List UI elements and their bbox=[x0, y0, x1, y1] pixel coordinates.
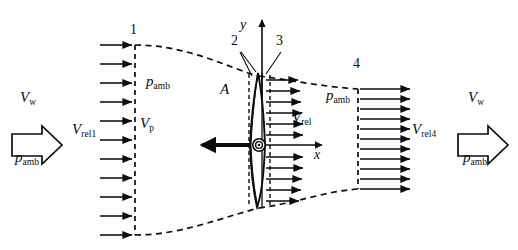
station-1-label: 1 bbox=[130, 23, 137, 37]
p-amb-upstream-sub: amb bbox=[154, 81, 171, 91]
x-axis-label: x bbox=[314, 148, 320, 162]
callout-leader-lines bbox=[240, 52, 281, 76]
v-rel1-sub: rel1 bbox=[81, 129, 96, 139]
p-amb-far-right-base: p bbox=[463, 149, 471, 165]
streamline-upper-front bbox=[135, 45, 259, 76]
p-amb-upstream-label: pamb bbox=[146, 74, 170, 91]
p-amb-downstream-label: pamb bbox=[326, 88, 350, 105]
upstream-velocity-arrows bbox=[100, 45, 132, 235]
wind-speed-left-label: Vw bbox=[20, 90, 36, 107]
p-amb-far-left-label: pamb bbox=[15, 150, 39, 167]
wind-speed-right-sub: w bbox=[477, 97, 484, 107]
wind-speed-left-base: V bbox=[20, 89, 29, 105]
leader-station-3 bbox=[266, 52, 281, 74]
v-rel-sub: rel bbox=[301, 117, 311, 127]
p-amb-upstream-base: p bbox=[146, 73, 154, 89]
station-4-label: 4 bbox=[353, 57, 360, 71]
v-p-label: Vp bbox=[140, 116, 154, 133]
p-amb-downstream-base: p bbox=[326, 87, 334, 103]
wind-speed-right-label: Vw bbox=[468, 90, 484, 107]
y-axis-label: y bbox=[240, 18, 246, 32]
streamline-lower-front bbox=[135, 208, 259, 235]
v-rel4-base: V bbox=[412, 121, 421, 137]
disk-velocity-arrows bbox=[266, 80, 303, 201]
v-rel4-sub: rel4 bbox=[421, 129, 436, 139]
actuator-disk-diagram: 1 2 3 4 y x A Vw pamb Vrel1 pamb Vp Vrel… bbox=[0, 0, 518, 250]
rotor-hub bbox=[253, 139, 265, 151]
p-amb-far-right-sub: amb bbox=[471, 157, 488, 167]
v-rel-base: V bbox=[292, 109, 301, 125]
station-2-label: 2 bbox=[231, 34, 238, 48]
v-rel1-base: V bbox=[72, 121, 81, 137]
v-rel1-label: Vrel1 bbox=[72, 122, 96, 139]
v-rel-label: Vrel bbox=[292, 110, 312, 127]
v-p-sub: p bbox=[149, 123, 154, 133]
p-amb-far-left-base: p bbox=[15, 149, 23, 165]
p-amb-far-left-sub: amb bbox=[23, 157, 40, 167]
wind-speed-left-sub: w bbox=[29, 97, 36, 107]
v-rel4-label: Vrel4 bbox=[412, 122, 436, 139]
downstream-velocity-arrows bbox=[360, 89, 410, 189]
p-amb-downstream-sub: amb bbox=[334, 95, 351, 105]
wind-speed-right-base: V bbox=[468, 89, 477, 105]
streamline-lower-rear bbox=[259, 189, 358, 208]
station-3-label: 3 bbox=[276, 34, 283, 48]
rotor-area-label: A bbox=[220, 82, 229, 97]
v-p-base: V bbox=[140, 115, 149, 131]
p-amb-far-right-label: pamb bbox=[463, 150, 487, 167]
